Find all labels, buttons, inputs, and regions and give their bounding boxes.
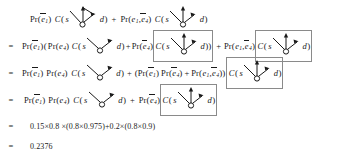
rparen: ) [67, 95, 70, 105]
rparen: ) [42, 95, 45, 105]
pr-symbol: Pr [48, 41, 56, 51]
subscript-1: 1 [207, 72, 210, 78]
line-4-body: Pr(e1) Pr(e4) C( s [24, 84, 217, 116]
cost-function-vee-2: C( s d) [71, 34, 124, 58]
cost-function-fan-2a: C( s d [155, 32, 208, 60]
prob-term-e1-not-e4: Pr(e1,e4) [191, 68, 222, 78]
prob-term-e4: Pr(e4) [46, 68, 67, 78]
rparen: ) [148, 14, 151, 24]
pr-symbol: Pr [161, 68, 169, 78]
c-symbol: C [257, 41, 264, 51]
prob-term-not-e4: Pr(e4) [161, 68, 182, 78]
derivation-block: Pr(e1) C( s [0, 0, 347, 163]
group-open-paren: ( [44, 41, 47, 51]
line-1-body: Pr(e1) C( s [30, 5, 208, 33]
prob-term-not-e4: Pr(e4) [132, 41, 153, 51]
rparen: ) [278, 68, 281, 78]
prob-term-not-e1: Pr(e1) [138, 68, 159, 78]
triangle-graph [69, 5, 99, 33]
prob-term-not-e4: Pr(e4) [139, 95, 160, 105]
sum-group-close-paren: ) [222, 68, 225, 78]
subscript-1: 1 [45, 18, 48, 24]
numeric-result: 0.2376 [30, 142, 53, 151]
relation-symbol-6: = [0, 141, 22, 151]
rparen: ) [65, 68, 68, 78]
subscript-4: 4 [63, 45, 66, 51]
fan-graph [177, 86, 207, 114]
subscript-4: 4 [145, 18, 148, 24]
relation-symbol-3: = [0, 68, 22, 78]
subscript-1: 1 [37, 45, 40, 51]
subscript-4: 4 [176, 72, 179, 78]
pr-symbol: Pr [24, 95, 32, 105]
pr-symbol: Pr [191, 68, 199, 78]
c-symbol: C [71, 41, 78, 51]
fan-graph [169, 5, 199, 33]
prob-term-not-e1: Pr(e1) [22, 68, 43, 78]
plus-operator: + [182, 68, 191, 78]
pr-symbol: Pr [224, 41, 232, 51]
equation-line-4: = Pr(e1) Pr(e4) C( s [0, 85, 347, 115]
c-symbol: C [154, 14, 161, 24]
pr-symbol: Pr [132, 41, 140, 51]
plus-operator: + [124, 41, 131, 51]
c-symbol: C [71, 68, 78, 78]
prob-term-e4: Pr(e4) [48, 95, 69, 105]
subscript-1: 1 [39, 99, 42, 105]
c-symbol: C [73, 95, 80, 105]
rparen: ) [156, 68, 159, 78]
rparen: ) [205, 14, 208, 24]
fan-graph [170, 32, 200, 60]
pr-symbol: Pr [48, 95, 56, 105]
relation-symbol-5: = [0, 121, 22, 131]
subscript-4: 4 [216, 72, 219, 78]
subscript-4: 4 [147, 45, 150, 51]
plus-operator: + [126, 95, 139, 105]
c-symbol: C [228, 68, 235, 78]
cost-function-fan-1: C( s d) [154, 5, 207, 33]
pr-symbol: Pr [22, 41, 30, 51]
prob-term-e4: Pr(e4) [48, 41, 69, 51]
highlight-box-fan-d: C( s d [160, 84, 217, 116]
subscript-4: 4 [64, 99, 67, 105]
equation-line-6: = 0.2376 [0, 138, 347, 154]
c-symbol: C [162, 95, 169, 105]
subscript-1: 1 [136, 18, 139, 24]
cost-function-triangle-1: C( s d) [54, 5, 107, 33]
subscript-1: 1 [153, 72, 156, 78]
c-symbol: C [155, 41, 162, 51]
equation-line-5: = 0.15×0.8 ×(0.8×0.975)+0.2×(0.8×0.9) [0, 118, 347, 134]
c-symbol: C [54, 14, 61, 24]
cost-function-fan-4: C( s d [162, 86, 215, 114]
pr-symbol: Pr [138, 68, 146, 78]
pr-symbol: Pr [139, 95, 147, 105]
cost-function-vee-4: C( s d) [73, 88, 126, 112]
rparen: ) [48, 14, 51, 24]
plus-operator: + [213, 41, 224, 51]
prob-term-e1-not-e4: Pr(e1,e4) [224, 41, 255, 51]
vee-graph [88, 88, 118, 112]
prob-term-not-e1: Pr(e1) [22, 41, 43, 51]
fan-graph [243, 59, 273, 87]
pr-symbol: Pr [46, 68, 54, 78]
subscript-4: 4 [249, 45, 252, 51]
fan-graph [272, 32, 302, 60]
subscript-4: 4 [62, 72, 65, 78]
pr-symbol: Pr [30, 14, 38, 24]
vee-graph [86, 61, 116, 85]
group-close-paren: ) [208, 41, 211, 51]
cost-function-vee-3: C( s d) [71, 61, 124, 85]
numeric-expression: 0.15×0.8 ×(0.8×0.975)+0.2×(0.8×0.9) [30, 122, 155, 131]
cost-function-fan-3: C( s d [228, 59, 281, 87]
pr-symbol: Pr [22, 68, 30, 78]
subscript-1: 1 [239, 45, 242, 51]
cost-function-fan-2b: C( s d [257, 32, 310, 60]
rparen: ) [66, 41, 69, 51]
rparen: ) [212, 95, 215, 105]
prob-term-e1-not-e4: Pr(e1,e4) [120, 14, 151, 24]
rparen: ) [307, 41, 310, 51]
subscript-1: 1 [37, 72, 40, 78]
plus-operator: + [124, 68, 135, 78]
prob-term-not-e1: Pr(e1) [24, 95, 45, 105]
rparen: ) [40, 68, 43, 78]
